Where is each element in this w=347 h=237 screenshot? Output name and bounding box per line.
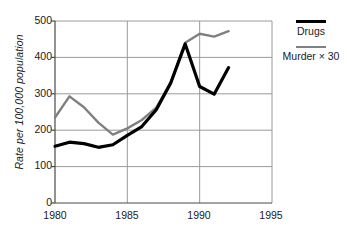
legend-item-drugs: Drugs (276, 20, 346, 37)
chart-figure: Rate per 100,000 population 500 400 300 … (0, 0, 347, 237)
legend-item-murder: Murder × 30 (276, 46, 346, 62)
chart-legend: Drugs Murder × 30 (276, 20, 346, 71)
legend-label-murder: Murder × 30 (268, 50, 347, 62)
series-line-drugs (55, 44, 229, 147)
legend-swatch-murder-icon (296, 46, 326, 48)
legend-swatch-drugs-icon (296, 20, 326, 23)
axis-lines (51, 21, 272, 203)
legend-label-drugs: Drugs (276, 25, 346, 37)
series-line-murder-30 (55, 31, 229, 134)
